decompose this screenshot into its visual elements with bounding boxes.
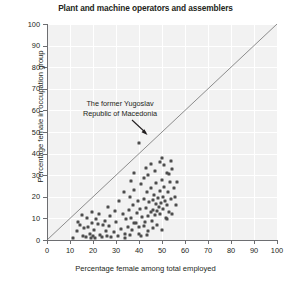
scatter-point — [166, 204, 169, 207]
x-tick-label: 60 — [173, 246, 197, 255]
scatter-point — [125, 218, 128, 221]
scatter-point — [157, 196, 160, 199]
scatter-point — [80, 214, 83, 217]
scatter-point — [129, 217, 132, 220]
chart-figure: Plant and machine operators and assemble… — [0, 0, 291, 287]
scatter-point — [103, 219, 106, 222]
scatter-point — [95, 218, 98, 221]
x-tick-label: 80 — [219, 246, 243, 255]
scatter-point — [126, 226, 129, 229]
scatter-point — [97, 213, 100, 216]
scatter-point — [151, 227, 154, 230]
scatter-point — [82, 227, 85, 230]
scatter-point — [175, 180, 178, 183]
y-tick — [43, 218, 47, 219]
x-tick — [116, 240, 117, 244]
scatter-point — [128, 195, 131, 198]
scatter-point — [121, 213, 124, 216]
scatter-point — [161, 178, 164, 181]
scatter-point — [136, 200, 139, 203]
scatter-point — [85, 235, 88, 238]
scatter-point — [77, 220, 80, 223]
scatter-point — [133, 221, 136, 224]
scatter-point — [96, 222, 99, 225]
scatter-point — [117, 234, 120, 237]
scatter-point — [123, 191, 126, 194]
scatter-point — [142, 177, 145, 180]
scatter-point — [150, 219, 153, 222]
scatter-point — [106, 205, 109, 208]
x-tick-label: 40 — [127, 246, 151, 255]
scatter-point — [167, 173, 170, 176]
scatter-point — [169, 180, 172, 183]
scatter-point — [94, 236, 97, 239]
x-tick — [208, 240, 209, 244]
scatter-point — [165, 218, 168, 221]
scatter-point — [124, 232, 127, 235]
annotation-line-2: Republic of Macedonia — [60, 109, 180, 119]
scatter-point — [129, 179, 132, 182]
scatter-point — [158, 190, 161, 193]
scatter-point — [147, 215, 150, 218]
scatter-point — [163, 186, 166, 189]
x-tick-label: 30 — [104, 246, 128, 255]
scatter-point — [132, 204, 135, 207]
scatter-point — [160, 202, 163, 205]
scatter-point — [162, 207, 165, 210]
scatter-point — [102, 223, 105, 226]
x-tick-label: 0 — [35, 246, 59, 255]
scatter-point — [170, 160, 173, 163]
x-tick — [277, 240, 278, 244]
scatter-point — [139, 207, 142, 210]
scatter-point — [119, 228, 122, 231]
scatter-point — [152, 208, 155, 211]
scatter-point — [131, 229, 134, 232]
x-tick-label: 10 — [58, 246, 82, 255]
scatter-point — [127, 208, 130, 211]
scatter-point — [138, 226, 141, 229]
x-tick — [231, 240, 232, 244]
scatter-point — [149, 163, 152, 166]
scatter-point — [146, 233, 149, 236]
scatter-point — [86, 217, 89, 220]
scatter-point — [161, 229, 164, 232]
scatter-point — [144, 166, 147, 169]
scatter-point — [115, 220, 118, 223]
scatter-point — [155, 181, 158, 184]
scatter-point — [124, 236, 127, 239]
scatter-point — [112, 231, 115, 234]
scatter-point — [163, 200, 166, 203]
scatter-point — [133, 172, 136, 175]
scatter-point — [143, 220, 146, 223]
annotation-arrow-icon — [130, 118, 160, 148]
scatter-point — [90, 210, 93, 213]
annotation-line-1: The former Yugoslav — [60, 99, 180, 109]
scatter-point — [118, 200, 121, 203]
y-axis-line — [47, 24, 48, 240]
x-tick — [70, 240, 71, 244]
y-tick-label: 0 — [14, 236, 40, 245]
scatter-point — [141, 216, 144, 219]
x-tick-label: 100 — [265, 246, 289, 255]
scatter-point — [142, 224, 145, 227]
x-tick-label: 50 — [150, 246, 174, 255]
scatter-point — [161, 195, 164, 198]
scatter-point — [146, 191, 149, 194]
x-tick — [47, 240, 48, 244]
scatter-point — [154, 169, 157, 172]
scatter-point — [163, 164, 166, 167]
plot-area — [47, 24, 277, 240]
scatter-point — [87, 226, 90, 229]
scatter-point — [161, 156, 164, 159]
x-tick-label: 90 — [242, 246, 266, 255]
scatter-point — [113, 209, 116, 212]
scatter-point — [156, 223, 159, 226]
scatter-point — [90, 221, 93, 224]
scatter-point — [150, 187, 153, 190]
x-tick — [139, 240, 140, 244]
x-tick — [254, 240, 255, 244]
y-axis-title: Percentage female in occupation group — [36, 17, 45, 217]
scatter-point — [144, 206, 147, 209]
scatter-point — [75, 230, 78, 233]
scatter-point — [72, 236, 75, 239]
